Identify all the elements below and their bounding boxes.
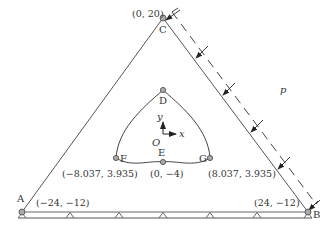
y-axis-label: y (156, 111, 163, 122)
load-label: p (280, 84, 287, 95)
label-c: C (159, 24, 167, 35)
label-d: D (159, 95, 167, 106)
coord-g: (8.037, 3.935) (208, 168, 276, 179)
x-axis-label: x (179, 128, 185, 139)
node-d-icon (160, 87, 165, 92)
distributed-load: p (166, 8, 320, 210)
base-support (18, 212, 312, 218)
label-b: B (313, 209, 320, 220)
node-f-icon (113, 155, 118, 160)
node-a-icon (19, 209, 25, 215)
support-triangle-icons (18, 213, 312, 219)
structural-diagram: p y x O C (0, 20) A (−24, −12) B (24, −1… (0, 0, 332, 235)
node-e-icon (160, 159, 165, 164)
coord-f: (−8.037, 3.935) (62, 168, 138, 179)
outer-triangle (22, 18, 308, 212)
label-g: G (199, 153, 207, 164)
coord-c: (0, 20) (132, 8, 164, 19)
coord-a: (−24, −12) (36, 197, 90, 208)
nodes (19, 15, 311, 215)
node-b-icon (305, 209, 311, 215)
coord-e: (0, −4) (150, 168, 184, 179)
coord-b: (24, −12) (254, 197, 300, 208)
node-g-icon (207, 155, 212, 160)
label-a: A (16, 193, 25, 204)
label-e: E (158, 147, 165, 158)
coordinate-axes: y x O (152, 111, 185, 148)
label-f: F (120, 153, 127, 164)
